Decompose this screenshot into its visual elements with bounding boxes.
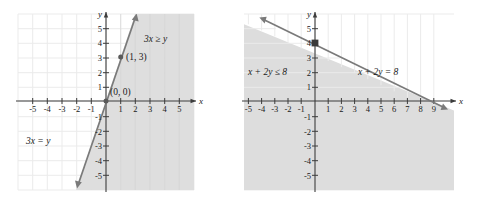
right-x-tick--2: -2 bbox=[284, 104, 291, 114]
left-y-tick--3: -3 bbox=[95, 141, 102, 151]
right-y-tick-3: 3 bbox=[307, 53, 311, 63]
right-x-tick--5: -5 bbox=[245, 104, 252, 114]
graph-panel-right: -5 -4 -3 -2 -1 1 2 3 4 5 6 7 8 9 5 4 3 2 bbox=[240, 0, 480, 203]
left-equation-label: 3x = y bbox=[25, 136, 51, 146]
right-x-tick-2: 2 bbox=[339, 104, 343, 114]
left-y-tick-5: 5 bbox=[98, 24, 102, 34]
left-point-origin-marker bbox=[104, 99, 109, 104]
right-x-tick-4: 4 bbox=[366, 104, 371, 114]
right-y-tick--5: -5 bbox=[304, 171, 311, 181]
right-y-tick-5: 5 bbox=[307, 24, 311, 34]
left-y-tick--2: -2 bbox=[95, 127, 102, 137]
right-x-axis-label: x bbox=[458, 96, 463, 106]
graph-panel-left: -5 -4 -3 -2 -1 1 2 3 4 5 5 4 3 2 1 -1 -2… bbox=[0, 0, 240, 203]
left-y-tick--5: -5 bbox=[95, 171, 102, 181]
left-y-tick-2: 2 bbox=[98, 68, 102, 78]
right-x-tick--4: -4 bbox=[258, 104, 266, 114]
right-x-tick-5: 5 bbox=[379, 104, 383, 114]
left-y-tick--1: -1 bbox=[95, 112, 102, 122]
left-x-tick-3: 3 bbox=[148, 104, 152, 114]
left-x-tick--3: -3 bbox=[58, 104, 65, 114]
left-x-axis-label: x bbox=[198, 96, 203, 106]
right-x-tick--3: -3 bbox=[271, 104, 278, 114]
right-y-tick--2: -2 bbox=[304, 127, 311, 137]
right-y-tick-1: 1 bbox=[307, 82, 311, 92]
left-x-tick--5: -5 bbox=[29, 104, 36, 114]
right-y-tick-2: 2 bbox=[307, 68, 311, 78]
left-y-tick-1: 1 bbox=[98, 82, 102, 92]
left-x-tick--1: -1 bbox=[88, 104, 95, 114]
right-x-tick-labels: -5 -4 -3 -2 -1 1 2 3 4 5 6 7 8 9 bbox=[245, 104, 436, 114]
right-x-tick-7: 7 bbox=[405, 104, 409, 114]
left-x-tick-2: 2 bbox=[133, 104, 137, 114]
left-x-tick-1: 1 bbox=[119, 104, 123, 114]
left-point-label-origin: (0, 0) bbox=[110, 87, 131, 98]
left-graph-svg: -5 -4 -3 -2 -1 1 2 3 4 5 5 4 3 2 1 -1 -2… bbox=[0, 0, 240, 203]
right-equation-label: x + 2y = 8 bbox=[357, 67, 399, 77]
left-x-tick--2: -2 bbox=[73, 104, 80, 114]
right-y-tick--4: -4 bbox=[304, 156, 312, 166]
right-inequality-label: x + 2y ≤ 8 bbox=[247, 67, 287, 77]
right-x-tick-8: 8 bbox=[418, 104, 422, 114]
left-x-tick--4: -4 bbox=[44, 104, 52, 114]
right-x-tick-9: 9 bbox=[432, 104, 436, 114]
left-y-axis-label: y bbox=[97, 9, 102, 19]
right-y-axis-label: y bbox=[306, 9, 311, 19]
right-x-tick-1: 1 bbox=[326, 104, 330, 114]
left-point-label-one-three: (1, 3) bbox=[126, 52, 147, 63]
left-x-tick-5: 5 bbox=[177, 104, 181, 114]
right-x-tick-6: 6 bbox=[392, 104, 396, 114]
figure-pair: -5 -4 -3 -2 -1 1 2 3 4 5 5 4 3 2 1 -1 -2… bbox=[0, 0, 480, 203]
right-point-y-intercept-marker bbox=[312, 40, 319, 47]
left-y-tick--4: -4 bbox=[95, 156, 103, 166]
left-inequality-label: 3x ≥ y bbox=[143, 34, 168, 44]
right-x-tick-3: 3 bbox=[352, 104, 356, 114]
right-y-tick--1: -1 bbox=[304, 112, 311, 122]
left-point-1-3-marker bbox=[118, 55, 123, 60]
left-x-tick-4: 4 bbox=[163, 104, 168, 114]
right-y-tick--3: -3 bbox=[304, 141, 311, 151]
right-graph-svg: -5 -4 -3 -2 -1 1 2 3 4 5 6 7 8 9 5 4 3 2 bbox=[240, 0, 480, 203]
left-y-tick-3: 3 bbox=[98, 53, 102, 63]
